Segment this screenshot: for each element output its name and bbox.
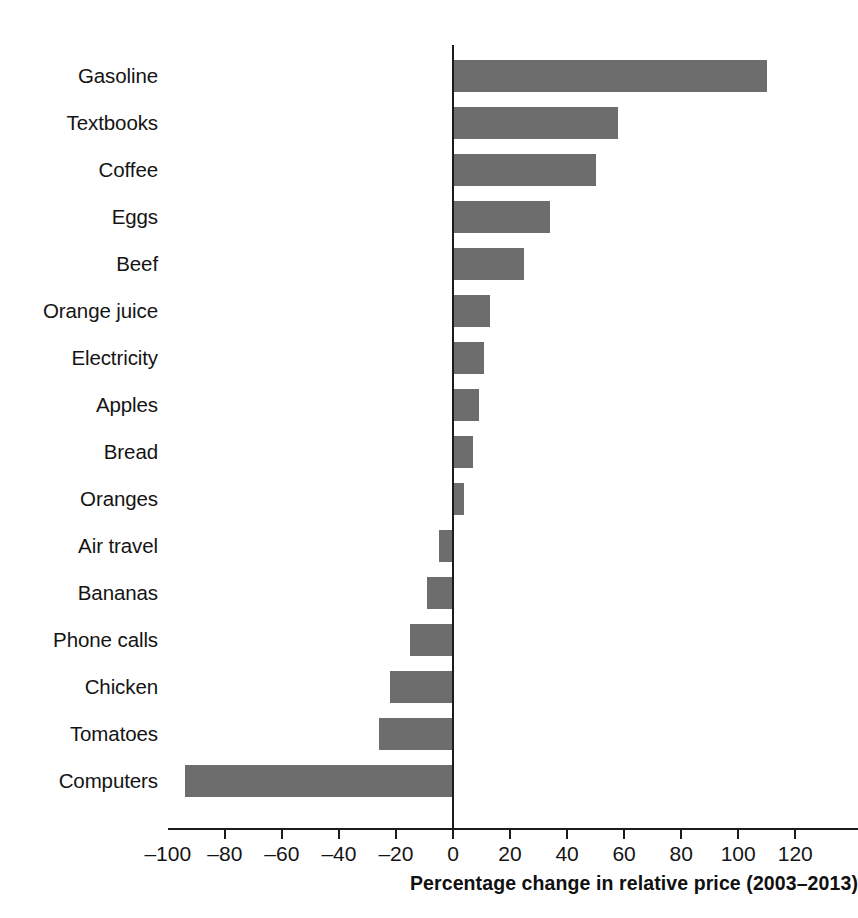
category-label: Bread xyxy=(0,436,158,468)
bar-row: Beef xyxy=(0,248,858,280)
bar xyxy=(439,530,453,562)
category-label: Phone calls xyxy=(0,624,158,656)
bar xyxy=(390,671,453,703)
category-label: Tomatoes xyxy=(0,718,158,750)
category-label: Orange juice xyxy=(0,295,158,327)
bar-row: Electricity xyxy=(0,342,858,374)
x-tick xyxy=(224,828,226,839)
bar-row: Chicken xyxy=(0,671,858,703)
bar xyxy=(453,389,479,421)
category-label: Textbooks xyxy=(0,107,158,139)
bar xyxy=(453,483,464,515)
bar xyxy=(410,624,453,656)
category-label: Gasoline xyxy=(0,60,158,92)
plot-area: GasolineTextbooksCoffeeEggsBeefOrange ju… xyxy=(0,0,858,918)
category-label: Apples xyxy=(0,389,158,421)
bar xyxy=(379,718,453,750)
bar xyxy=(453,154,596,186)
category-label: Bananas xyxy=(0,577,158,609)
category-label: Eggs xyxy=(0,201,158,233)
x-axis-title: Percentage change in relative price (200… xyxy=(168,872,858,895)
bar-row: Oranges xyxy=(0,483,858,515)
bar-row: Bread xyxy=(0,436,858,468)
bar-row: Air travel xyxy=(0,530,858,562)
bar-row: Eggs xyxy=(0,201,858,233)
bar-row: Orange juice xyxy=(0,295,858,327)
bar xyxy=(453,107,618,139)
category-label: Beef xyxy=(0,248,158,280)
bar-row: Apples xyxy=(0,389,858,421)
bar-row: Computers xyxy=(0,765,858,797)
bar xyxy=(427,577,453,609)
bar-row: Gasoline xyxy=(0,60,858,92)
bar-row: Bananas xyxy=(0,577,858,609)
x-tick xyxy=(566,828,568,839)
y-axis-line xyxy=(452,45,454,830)
bar-row: Textbooks xyxy=(0,107,858,139)
bar xyxy=(453,201,550,233)
x-tick xyxy=(737,828,739,839)
bar xyxy=(453,436,473,468)
x-tick xyxy=(395,828,397,839)
category-label: Coffee xyxy=(0,154,158,186)
category-label: Computers xyxy=(0,765,158,797)
bar xyxy=(185,765,453,797)
x-tick xyxy=(680,828,682,839)
bar xyxy=(453,342,484,374)
category-label: Oranges xyxy=(0,483,158,515)
x-tick xyxy=(794,828,796,839)
x-axis-line xyxy=(168,828,858,830)
bar xyxy=(453,248,524,280)
category-label: Air travel xyxy=(0,530,158,562)
bar-row: Phone calls xyxy=(0,624,858,656)
bar-row: Tomatoes xyxy=(0,718,858,750)
x-tick xyxy=(338,828,340,839)
category-label: Electricity xyxy=(0,342,158,374)
x-tick xyxy=(509,828,511,839)
x-tick xyxy=(452,828,454,839)
bar xyxy=(453,60,767,92)
bar-chart: GasolineTextbooksCoffeeEggsBeefOrange ju… xyxy=(0,0,858,918)
category-label: Chicken xyxy=(0,671,158,703)
x-tick xyxy=(623,828,625,839)
bar xyxy=(453,295,490,327)
x-tick xyxy=(281,828,283,839)
bar-row: Coffee xyxy=(0,154,858,186)
x-tick-label: 120 xyxy=(755,842,835,866)
